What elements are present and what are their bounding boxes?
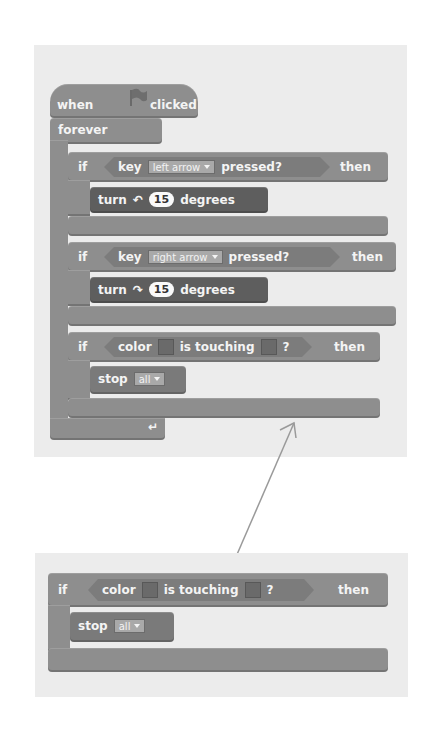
stop-block[interactable]: stop all [70, 612, 174, 642]
if-block-color-touching[interactable]: if color is touching ? then [48, 573, 388, 607]
if-block-bottom [48, 648, 388, 672]
color-swatch[interactable] [142, 582, 158, 598]
then-label: then [338, 583, 369, 597]
if-label: if [58, 583, 67, 597]
chevron-down-icon [134, 624, 140, 628]
color-swatch[interactable] [245, 582, 261, 598]
color-label: color [102, 583, 136, 597]
if-block-arm [48, 605, 70, 651]
stop-dropdown[interactable]: all [114, 619, 146, 633]
question-label: ? [267, 583, 274, 597]
color-touching-condition[interactable]: color is touching ? [88, 579, 314, 601]
stop-dropdown-value: all [119, 621, 131, 632]
stop-label: stop [78, 619, 108, 633]
is-touching-label: is touching [164, 583, 239, 597]
